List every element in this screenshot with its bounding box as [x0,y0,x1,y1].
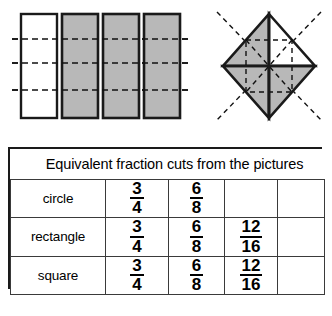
bar-2 [62,14,98,118]
fraction-numerator: 3 [130,257,143,276]
table-row: square 3 4 6 8 12 16 [11,256,325,294]
equivalent-fraction-table: Equivalent fraction cuts from the pictur… [10,149,325,295]
equivalent-fraction-table-container: Equivalent fraction cuts from the pictur… [8,147,322,289]
table-row: circle 3 4 6 8 [11,180,325,218]
fraction-denominator: 4 [130,276,143,293]
cell-square-col4[interactable] [278,256,325,294]
fraction-value: 3 4 [130,257,143,294]
fraction-numerator: 6 [190,257,203,276]
diamond-center-cross [223,14,315,118]
fraction-denominator: 4 [130,238,143,255]
table-header-row: Equivalent fraction cuts from the pictur… [11,149,325,180]
row-label-circle: circle [11,180,106,218]
row-label-square: square [11,256,106,294]
cell-rectangle-col1[interactable]: 3 4 [106,218,169,256]
rectangle-bars-figure [0,0,200,140]
figures-panel [0,0,332,140]
fraction-numerator: 6 [190,218,203,237]
diamond-quartered-figure [205,0,332,140]
cell-square-col3[interactable]: 12 16 [225,256,278,294]
fraction-value: 12 16 [240,218,263,255]
fraction-value: 6 8 [190,257,203,294]
fraction-numerator: 6 [190,180,203,199]
fraction-denominator: 8 [190,238,203,255]
fraction-numerator: 12 [240,218,263,237]
fraction-value: 12 16 [240,257,263,294]
fraction-value: 6 8 [190,218,203,255]
cell-rectangle-col2[interactable]: 6 8 [169,218,225,256]
fraction-denominator: 8 [190,276,203,293]
fraction-numerator: 3 [130,218,143,237]
bar-4 [144,14,180,118]
fraction-numerator: 12 [240,257,263,276]
bar-1 [21,14,57,118]
cell-circle-col1[interactable]: 3 4 [106,180,169,218]
cell-circle-col2[interactable]: 6 8 [169,180,225,218]
fraction-denominator: 4 [130,199,143,216]
cell-rectangle-col4[interactable] [278,218,325,256]
cell-square-col2[interactable]: 6 8 [169,256,225,294]
fraction-value: 3 4 [130,180,143,217]
fraction-denominator: 16 [240,276,263,293]
fraction-denominator: 16 [240,238,263,255]
fraction-numerator: 3 [130,180,143,199]
table-title: Equivalent fraction cuts from the pictur… [11,149,325,180]
table-body: circle 3 4 6 8 [11,180,325,295]
fraction-denominator: 8 [190,199,203,216]
cell-circle-col4[interactable] [278,180,325,218]
bar-3 [103,14,139,118]
cell-circle-col3[interactable] [225,180,278,218]
table-row: rectangle 3 4 6 8 12 16 [11,218,325,256]
row-label-rectangle: rectangle [11,218,106,256]
fraction-value: 6 8 [190,180,203,217]
cell-rectangle-col3[interactable]: 12 16 [225,218,278,256]
cell-square-col1[interactable]: 3 4 [106,256,169,294]
fraction-value: 3 4 [130,218,143,255]
